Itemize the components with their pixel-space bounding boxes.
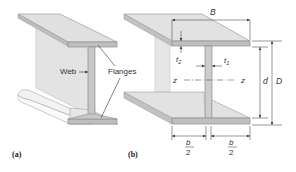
caption-a: (a): [12, 150, 22, 159]
axis-z-left: z: [172, 76, 177, 85]
i-beam-figure: Web Flanges (a) B t2: [0, 0, 296, 172]
flanges-leader-bottom: [101, 78, 120, 118]
panel-b-i-beam: [124, 14, 250, 124]
axis-z-right: z: [240, 76, 245, 85]
half-width-right-den: 2: [229, 148, 234, 157]
flanges-label: Flanges: [108, 67, 136, 76]
flange-thickness-label: t2: [176, 55, 181, 65]
half-width-left-den: 2: [186, 148, 191, 157]
caption-b: (b): [128, 150, 138, 159]
total-depth-label: D: [276, 76, 282, 86]
half-width-left-num: b: [186, 138, 191, 147]
web-depth-label: d: [263, 76, 268, 86]
half-width-right-num: b: [229, 138, 234, 147]
flanges-leader-top: [98, 45, 115, 66]
flange-width-label: B: [210, 7, 216, 17]
web-label: Web: [60, 67, 77, 76]
web-thickness-label: t1: [224, 56, 229, 66]
